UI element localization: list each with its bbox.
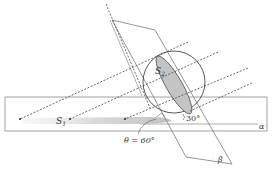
normal-line-2 [110,20,142,96]
label-alpha: α [259,122,265,131]
label-angle-30: 30° [186,114,200,123]
label-s1: S1 [56,116,66,127]
projection-diagram: S2 S1 30° θ = 60° α β [0,0,272,172]
label-beta: β [217,155,223,164]
label-theta: θ = 60° [124,136,155,145]
plane-alpha [5,97,267,131]
angle-30-arc [183,114,185,120]
light-rays [20,42,252,119]
shadow-s1 [22,117,172,124]
